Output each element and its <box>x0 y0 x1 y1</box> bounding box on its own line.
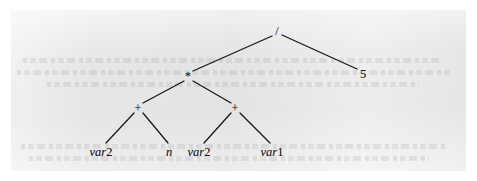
tree-node-multiply: * <box>185 70 191 82</box>
tree-edge-plusL-var2 <box>106 113 134 143</box>
tree-node-plus-left: + <box>135 102 142 114</box>
leaf-var-index: 2 <box>106 145 112 159</box>
tree-leaf-n: n <box>166 146 172 159</box>
tree-edge-mul-plusL <box>143 81 184 103</box>
tree-edge-root-five <box>282 35 357 69</box>
leaf-var-name: var <box>90 145 107 159</box>
tree-edge-plusL-n <box>143 113 168 143</box>
leaf-var-name: var <box>261 145 278 159</box>
tree-edge-mul-plusR <box>193 81 231 103</box>
tree-leaf-var2-a: var2 <box>90 146 113 159</box>
tree-node-divide: / <box>275 25 278 37</box>
tree-leaf-var2-b: var2 <box>188 146 211 159</box>
leaf-var-name: var <box>188 145 205 159</box>
leaf-var-index: 1 <box>277 145 283 159</box>
expression-tree-figure: / * 5 + + var2 n var2 var1 <box>0 0 477 181</box>
tree-node-plus-right: + <box>232 102 239 114</box>
tree-node-five: 5 <box>360 68 366 81</box>
tree-edge-plusR-var1 <box>240 113 270 143</box>
tree-edge-root-mul <box>193 36 272 71</box>
tree-edge-plusR-var2 <box>204 113 231 143</box>
leaf-var-index: 2 <box>204 145 210 159</box>
tree-edges-layer <box>0 0 477 181</box>
tree-leaf-var1: var1 <box>261 146 284 159</box>
